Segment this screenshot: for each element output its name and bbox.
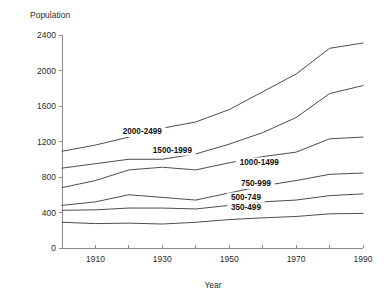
series-label-500-749: 500-749 bbox=[231, 193, 261, 202]
series-inline-labels: 2000-24991500-19991000-1499750-999500-74… bbox=[119, 127, 283, 213]
x-tick-label: 1990 bbox=[354, 254, 373, 264]
x-tick-label: 1930 bbox=[153, 254, 172, 264]
y-tick-label: 2000 bbox=[37, 66, 56, 76]
x-axis: 19101930195019701990 bbox=[62, 245, 373, 264]
y-tick-label: 1200 bbox=[37, 137, 56, 147]
y-axis-title: Population bbox=[30, 10, 70, 20]
series-line-750-999 bbox=[62, 173, 363, 205]
x-axis-title: Year bbox=[204, 280, 221, 290]
series-label-350-499: 350-499 bbox=[231, 203, 261, 212]
series-label-2000-2499: 2000-2499 bbox=[123, 127, 163, 136]
y-tick-label: 0 bbox=[51, 243, 56, 253]
series-label-1000-1499: 1000-1499 bbox=[240, 158, 280, 167]
series-line-350-499 bbox=[62, 213, 363, 224]
series-line-2000-2499 bbox=[62, 43, 363, 151]
series-label-1500-1999: 1500-1999 bbox=[153, 146, 193, 155]
y-axis: 04008001200160020002400 bbox=[37, 30, 62, 253]
chart-canvas: 04008001200160020002400 1910193019501970… bbox=[0, 0, 390, 304]
y-tick-label: 800 bbox=[42, 172, 56, 182]
y-tick-label: 1600 bbox=[37, 101, 56, 111]
series-lines bbox=[62, 43, 363, 224]
x-tick-label: 1950 bbox=[220, 254, 239, 264]
series-line-1500-1999 bbox=[62, 86, 363, 169]
y-tick-label: 2400 bbox=[37, 30, 56, 40]
series-label-750-999: 750-999 bbox=[241, 179, 271, 188]
population-line-chart: 04008001200160020002400 1910193019501970… bbox=[0, 0, 390, 304]
x-tick-label: 1970 bbox=[287, 254, 306, 264]
x-tick-label: 1910 bbox=[86, 254, 105, 264]
y-tick-label: 400 bbox=[42, 208, 56, 218]
